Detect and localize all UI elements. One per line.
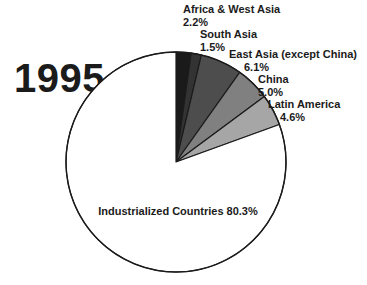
- chart-canvas: 1995 Africa & West Asia 2.2% South Asia …: [0, 0, 367, 285]
- slice-label-text: Latin America: [268, 98, 340, 110]
- slice-label-east-asia: East Asia (except China) 6.1%: [229, 48, 357, 73]
- slice-label-percent: 2.2%: [183, 16, 280, 29]
- slice-label-text: South Asia: [200, 28, 257, 40]
- slice-label-text: Industrialized Countries: [98, 205, 223, 217]
- pie-slice-group: [66, 52, 286, 272]
- slice-label-text: China: [258, 73, 289, 85]
- slice-label-text: East Asia (except China): [229, 48, 357, 60]
- pie-svg: [65, 51, 287, 273]
- slice-label-latin-america: Latin America 4.6%: [268, 98, 340, 123]
- slice-label-percent: 5.0%: [258, 86, 289, 99]
- slice-label-percent: 4.6%: [268, 111, 340, 124]
- slice-label-china: China 5.0%: [258, 73, 289, 98]
- slice-label-text: Africa & West Asia: [183, 3, 280, 15]
- pie-chart: [65, 51, 287, 273]
- slice-label-africa-west-asia: Africa & West Asia 2.2%: [183, 3, 280, 28]
- slice-label-industrialized-countries: Industrialized Countries 80.3%: [88, 205, 268, 218]
- slice-label-percent: 80.3%: [227, 205, 258, 217]
- slice-label-percent: 6.1%: [229, 61, 357, 74]
